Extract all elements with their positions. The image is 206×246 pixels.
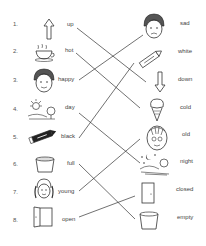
word-young: young — [58, 188, 74, 194]
word-happy: happy — [58, 76, 74, 82]
row-number: 3. — [13, 77, 18, 83]
word-up: up — [67, 21, 74, 27]
sun-day-icon — [27, 98, 57, 122]
closed-door-icon — [141, 182, 155, 204]
full-bucket-icon — [35, 156, 55, 174]
girl-face-icon — [33, 178, 55, 202]
black-crayon-icon — [28, 128, 58, 144]
word-down: down — [178, 76, 192, 82]
hot-cup-icon — [33, 43, 57, 63]
row-number: 8. — [13, 217, 18, 223]
word-open: open — [62, 216, 75, 222]
row-number: 4. — [13, 106, 18, 112]
word-black: black — [61, 133, 75, 139]
line-hot-cold — [76, 53, 140, 108]
ice-cream-icon — [148, 97, 166, 123]
word-cold: cold — [180, 104, 191, 110]
row-number: 1. — [13, 21, 18, 27]
word-day: day — [65, 104, 75, 110]
line-day-night — [79, 113, 140, 163]
matching-lines — [0, 0, 206, 246]
line-happy-sad — [79, 35, 143, 80]
moon-night-icon — [139, 152, 171, 176]
row-number: 2. — [13, 48, 18, 54]
word-empty: empty — [177, 214, 193, 220]
line-young-old — [79, 139, 140, 191]
down-arrow-icon — [153, 71, 167, 93]
up-arrow-icon — [42, 18, 56, 40]
old-face-icon — [145, 125, 169, 151]
word-hot: hot — [65, 47, 73, 53]
word-sad: sad — [180, 20, 190, 26]
word-old: old — [182, 131, 190, 137]
empty-bucket-icon — [139, 211, 159, 231]
row-number: 6. — [13, 161, 18, 167]
line-open-closed — [79, 196, 135, 217]
row-number: 7. — [13, 189, 18, 195]
line-full-empty — [79, 164, 135, 219]
sad-face-icon — [143, 13, 165, 41]
word-white: white — [178, 48, 192, 54]
happy-face-icon — [32, 68, 56, 94]
word-full: full — [67, 160, 75, 166]
row-number: 5. — [13, 134, 18, 140]
open-door-icon — [32, 206, 54, 228]
word-night: night — [180, 158, 193, 164]
word-closed: closed — [176, 186, 193, 192]
white-crayon-icon — [135, 48, 165, 70]
